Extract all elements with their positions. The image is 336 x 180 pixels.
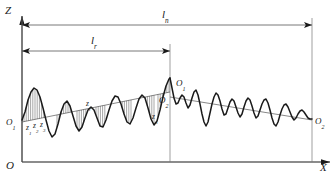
ordinate-label-z1: z1 <box>26 124 31 134</box>
point-label-mid-upper-O1: O1 <box>176 79 185 91</box>
dimension-label-sampling-length: lr <box>91 35 97 49</box>
label-main: O <box>6 117 13 127</box>
label-main: O <box>159 95 166 105</box>
x-axis-label: X <box>320 162 327 173</box>
point-label-right-end-O2: O2 <box>315 117 324 129</box>
point-label-mid-lower-O2: O2 <box>159 96 168 108</box>
point-label-origin-left-O1: O1 <box>6 118 15 130</box>
origin-label: O <box>6 160 14 171</box>
label-main: O <box>315 116 322 126</box>
label-subscript: n <box>165 17 169 25</box>
roughness-profile-figure: Z X O lnlr O1O1O2O2 z1z2z3zizn <box>0 0 336 180</box>
label-subscript: r <box>94 43 97 51</box>
ordinate-label-z3: z3 <box>40 121 45 131</box>
dimension-lines-group <box>22 25 312 51</box>
profile-curve-right <box>170 78 312 126</box>
label-main: O <box>176 78 183 88</box>
z-axis-label: Z <box>5 5 11 16</box>
ordinate-label-zn: zn <box>152 113 157 123</box>
diagram-canvas <box>0 0 336 180</box>
ordinate-label-zi: zi <box>86 100 90 110</box>
ordinate-label-z2: z2 <box>33 122 38 132</box>
dimension-label-evaluation-length: ln <box>162 9 169 23</box>
